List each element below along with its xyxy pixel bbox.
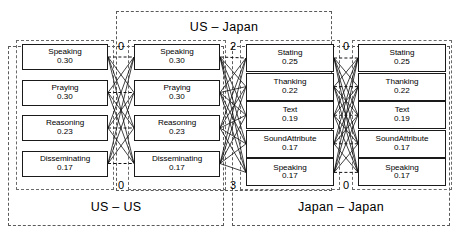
node-col-us-1-2: Reasoning0.23: [22, 115, 108, 141]
node-value: 0.19: [394, 115, 410, 124]
node-col-japan-1-0: Stating0.25: [246, 44, 334, 72]
node-value: 0.17: [57, 164, 73, 173]
node-value: 0.30: [169, 57, 185, 66]
gap-number-us2-japan1-top: 2: [218, 40, 248, 52]
node-value: 0.23: [169, 128, 185, 137]
node-value: 0.17: [169, 164, 185, 173]
node-col-us-2-1: Praying0.30: [134, 80, 220, 106]
node-value: 0.17: [282, 172, 298, 181]
node-col-us-1-3: Disseminating0.17: [22, 151, 108, 177]
node-value: 0.22: [394, 87, 410, 96]
node-value: 0.17: [282, 144, 298, 153]
gap-number-us2-japan1-bottom: 3: [218, 179, 248, 191]
node-col-japan-1-3: SoundAttribute0.17: [246, 130, 334, 158]
node-value: 0.30: [57, 57, 73, 66]
group-label-japan-japan: Japan – Japan: [273, 200, 409, 214]
gap-number-japan1-japan2-top: 0: [331, 40, 361, 52]
node-col-us-2-2: Reasoning0.23: [134, 115, 220, 141]
node-col-japan-2-0: Stating0.25: [358, 44, 446, 72]
node-col-us-2-3: Disseminating0.17: [134, 151, 220, 177]
node-col-japan-1-2: Text0.19: [246, 101, 334, 129]
gap-number-japan1-japan2-bottom: 0: [331, 179, 361, 191]
group-label-us-us: US – US: [48, 200, 184, 214]
node-value: 0.22: [282, 87, 298, 96]
node-value: 0.23: [57, 128, 73, 137]
node-col-japan-2-1: Thanking0.22: [358, 73, 446, 101]
node-col-japan-2-2: Text0.19: [358, 101, 446, 129]
node-value: 0.17: [394, 172, 410, 181]
node-col-japan-1-1: Thanking0.22: [246, 73, 334, 101]
diagram-canvas: US – Japan US – US Japan – Japan 0 0 2 3…: [0, 0, 457, 238]
gap-number-us1-us2-top: 0: [106, 40, 136, 52]
node-value: 0.25: [282, 58, 298, 67]
node-value: 0.25: [394, 58, 410, 67]
node-col-japan-2-4: Speaking0.17: [358, 158, 446, 186]
group-label-us-japan: US – Japan: [156, 20, 292, 34]
node-col-japan-2-3: SoundAttribute0.17: [358, 130, 446, 158]
node-col-us-1-0: Speaking0.30: [22, 44, 108, 70]
node-col-japan-1-4: Speaking0.17: [246, 158, 334, 186]
node-value: 0.17: [394, 144, 410, 153]
node-col-us-2-0: Speaking0.30: [134, 44, 220, 70]
node-col-us-1-1: Praying0.30: [22, 80, 108, 106]
node-value: 0.19: [282, 115, 298, 124]
node-value: 0.30: [57, 93, 73, 102]
node-value: 0.30: [169, 93, 185, 102]
gap-number-us1-us2-bottom: 0: [106, 179, 136, 191]
